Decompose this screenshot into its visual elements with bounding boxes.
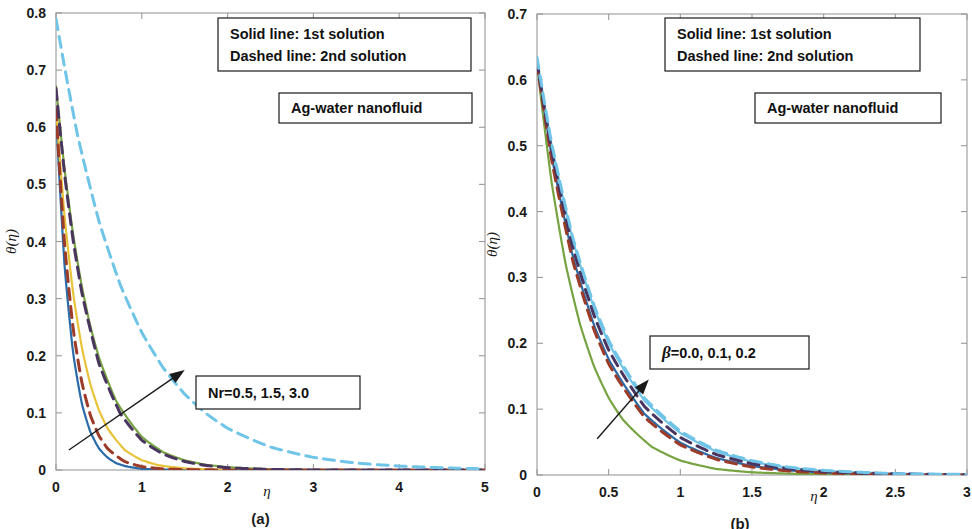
- y-tick-label: 0.2: [508, 335, 528, 351]
- y-tick-label: 0.5: [27, 176, 47, 192]
- y-tick-label: 0.4: [508, 204, 528, 220]
- x-tick-label: 2: [820, 484, 828, 500]
- y-tick-label: 0.2: [27, 348, 47, 364]
- curve-series-3: [537, 63, 967, 475]
- y-tick-label: 0: [519, 467, 527, 483]
- curve-series-0: [56, 113, 485, 470]
- trend-arrow-head: [169, 370, 184, 383]
- x-tick-label: 5: [481, 479, 489, 495]
- x-axis-label: η: [810, 488, 817, 504]
- x-tick-label: 2.5: [886, 484, 906, 500]
- y-tick-label: 0: [38, 462, 46, 478]
- plot-frame: [537, 14, 967, 475]
- y-tick-label: 0.8: [27, 5, 47, 21]
- x-axis-label: η: [263, 483, 270, 499]
- y-axis-label: θ(η): [3, 229, 20, 254]
- y-tick-label: 0.4: [27, 234, 47, 250]
- y-tick-label: 0.3: [27, 291, 47, 307]
- panel-caption: (b): [730, 515, 749, 529]
- panel-b: 00.511.522.5300.10.20.30.40.50.60.7ηθ(η)…: [492, 0, 972, 529]
- x-tick-label: 1: [676, 484, 684, 500]
- y-tick-label: 0.7: [508, 6, 528, 22]
- x-tick-label: 1: [138, 479, 146, 495]
- figure-container: 01234500.10.20.30.40.50.60.70.8ηθ(η)(a)S…: [0, 0, 972, 529]
- panel-a: 01234500.10.20.30.40.50.60.70.8ηθ(η)(a)S…: [0, 0, 492, 529]
- parameter-text: Nr=0.5, 1.5, 3.0: [208, 385, 309, 401]
- material-text: Ag-water nanofluid: [767, 100, 898, 116]
- x-tick-label: 4: [395, 479, 403, 495]
- y-tick-label: 0.5: [508, 138, 528, 154]
- x-tick-label: 2: [224, 479, 232, 495]
- legend-text: Solid line: 1st solution: [677, 26, 832, 42]
- curve-series-4: [56, 88, 485, 470]
- x-tick-label: 0: [533, 484, 541, 500]
- y-tick-label: 0.6: [508, 72, 528, 88]
- x-tick-label: 3: [963, 484, 971, 500]
- chart-b-svg: 00.511.522.5300.10.20.30.40.50.60.7ηθ(η)…: [492, 0, 972, 529]
- chart-a-svg: 01234500.10.20.30.40.50.60.70.8ηθ(η)(a)S…: [0, 0, 492, 529]
- x-tick-label: 0: [52, 479, 60, 495]
- x-tick-label: 0.5: [599, 484, 619, 500]
- legend-text: Solid line: 1st solution: [230, 26, 385, 42]
- y-axis-label: θ(η): [484, 232, 501, 257]
- y-tick-label: 0.7: [27, 62, 47, 78]
- curve-series-0: [537, 63, 967, 475]
- y-tick-label: 0.3: [508, 269, 528, 285]
- trend-arrow-line: [597, 386, 643, 438]
- parameter-text: β=0.0, 0.1, 0.2: [661, 343, 756, 362]
- panel-caption: (a): [251, 510, 269, 527]
- legend-text: Dashed line: 2nd solution: [230, 48, 406, 64]
- y-tick-label: 0.1: [508, 401, 528, 417]
- material-text: Ag-water nanofluid: [291, 100, 422, 116]
- y-tick-label: 0.6: [27, 119, 47, 135]
- legend-text: Dashed line: 2nd solution: [677, 48, 853, 64]
- x-tick-label: 1.5: [742, 484, 762, 500]
- x-tick-label: 3: [310, 479, 318, 495]
- y-tick-label: 0.1: [27, 405, 47, 421]
